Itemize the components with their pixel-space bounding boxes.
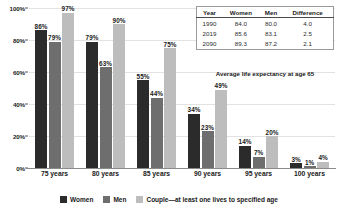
bar-value-label: 7%: [254, 149, 263, 156]
table-cell: 89.3: [222, 39, 260, 50]
bar: 55%: [137, 80, 149, 168]
bar-value-label: 49%: [215, 82, 228, 89]
legend-label: Men: [113, 196, 126, 203]
y-tick-mark: [25, 8, 28, 9]
table-cell: 85.6: [222, 28, 260, 38]
y-tick-label: 0%: [16, 165, 25, 172]
bar: 44%: [151, 98, 163, 168]
bar-value-label: 44%: [150, 90, 163, 97]
bar-group: 79%63%90%: [80, 8, 131, 168]
bar-value-label: 23%: [201, 124, 214, 131]
bar: 79%: [86, 42, 98, 168]
y-tick-label: 100%: [10, 5, 25, 12]
bar-value-label: 79%: [86, 34, 99, 41]
y-tick-mark: [25, 40, 28, 41]
bar-value-label: 1%: [305, 159, 314, 166]
x-axis-labels: 75 years80 years85 years90 years95 years…: [29, 170, 335, 177]
y-tick-mark: [25, 104, 28, 105]
bar: 97%: [62, 13, 74, 168]
table-caption: Average life expectancy at age 65: [196, 70, 334, 77]
table-column-header: Year: [197, 7, 222, 18]
x-tick-label: 90 years: [182, 170, 233, 177]
bar-value-label: 79%: [48, 34, 61, 41]
table-cell: 87.2: [260, 39, 282, 50]
bar: 90%: [113, 24, 125, 168]
table-row: 199084.080.04.0: [197, 18, 334, 29]
bar-value-label: 3%: [291, 156, 300, 163]
legend-swatch: [103, 196, 110, 203]
bar: 49%: [215, 90, 227, 168]
bar: 86%: [35, 30, 47, 168]
table-cell: 84.0: [222, 18, 260, 29]
bar: 7%: [253, 157, 265, 168]
legend-item: Men: [103, 196, 126, 203]
table-column-header: Women: [222, 7, 260, 18]
bar: 4%: [317, 162, 329, 168]
y-tick-mark: [25, 72, 28, 73]
chart-container: 0%20%40%60%80%100% 86%79%97%79%63%90%55%…: [0, 0, 338, 218]
table-cell: 80.0: [260, 18, 282, 29]
bar-value-label: 97%: [62, 5, 75, 12]
table-header-row: YearWomenMenDifference: [197, 7, 334, 18]
table-column-header: Men: [260, 7, 282, 18]
bar-value-label: 4%: [318, 154, 327, 161]
bar-value-label: 20%: [266, 129, 279, 136]
bar-value-label: 75%: [164, 41, 177, 48]
legend-item: Couple—at least one lives to specified a…: [136, 196, 277, 203]
x-tick-label: 100 years: [284, 170, 335, 177]
bar-group: 86%79%97%: [29, 8, 80, 168]
bar-value-label: 63%: [99, 60, 112, 67]
table-cell: 2.5: [282, 28, 333, 38]
table-body: 199084.080.04.0201985.683.12.5209089.387…: [197, 18, 334, 50]
bar: 63%: [100, 67, 112, 168]
bar-value-label: 90%: [113, 17, 126, 24]
y-tick-label: 80%: [13, 37, 25, 44]
legend-label: Couple—at least one lives to specified a…: [146, 196, 277, 203]
legend-item: Women: [60, 196, 93, 203]
x-tick-label: 95 years: [233, 170, 284, 177]
table-cell: 4.0: [282, 18, 333, 29]
bar: 1%: [304, 166, 316, 168]
y-tick-mark: [25, 136, 28, 137]
table-cell: 83.1: [260, 28, 282, 38]
legend-swatch: [136, 196, 143, 203]
table-cell: 2019: [197, 28, 222, 38]
y-tick-label: 40%: [13, 101, 25, 108]
table-row: 209089.387.22.1: [197, 39, 334, 50]
y-tick-label: 60%: [13, 69, 25, 76]
bar-group: 55%44%75%: [131, 8, 182, 168]
chart-legend: WomenMenCouple—at least one lives to spe…: [0, 196, 338, 203]
bar-value-label: 55%: [137, 73, 150, 80]
legend-swatch: [60, 196, 67, 203]
y-tick-label: 20%: [13, 133, 25, 140]
bar: 79%: [49, 42, 61, 168]
table-column-header: Difference: [282, 7, 333, 18]
table-cell: 1990: [197, 18, 222, 29]
bar-value-label: 34%: [188, 106, 201, 113]
legend-label: Women: [70, 196, 93, 203]
bar: 20%: [266, 136, 278, 168]
y-axis: 0%20%40%60%80%100%: [0, 8, 28, 168]
bar: 34%: [188, 114, 200, 168]
bar-value-label: 86%: [35, 23, 48, 30]
x-tick-label: 80 years: [80, 170, 131, 177]
bar: 23%: [202, 131, 214, 168]
table-cell: 2090: [197, 39, 222, 50]
table-cell: 2.1: [282, 39, 333, 50]
table-row: 201985.683.12.5: [197, 28, 334, 38]
bar: 3%: [290, 163, 302, 168]
x-tick-label: 75 years: [29, 170, 80, 177]
life-expectancy-table: YearWomenMenDifference 199084.080.04.020…: [196, 6, 334, 50]
bar: 14%: [239, 146, 251, 168]
x-tick-label: 85 years: [131, 170, 182, 177]
table: YearWomenMenDifference 199084.080.04.020…: [196, 6, 334, 50]
bar-value-label: 14%: [239, 138, 252, 145]
bar: 75%: [164, 48, 176, 168]
